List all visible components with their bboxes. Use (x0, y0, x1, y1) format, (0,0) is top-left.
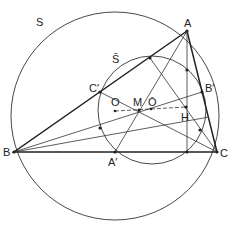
altitude-B (14, 117, 209, 152)
label-B: B (3, 146, 10, 158)
label-O-bar: Ō (148, 96, 157, 108)
label-O: O (111, 96, 120, 108)
label-A-prime: A′ (108, 156, 117, 168)
label-S: S (36, 16, 43, 28)
points (12, 29, 218, 153)
median-B (14, 92, 202, 152)
label-M: M (133, 96, 142, 108)
label-C-prime: C′ (89, 82, 99, 94)
label-H: H (181, 111, 189, 123)
label-B-prime: B′ (205, 82, 214, 94)
label-C: C (220, 147, 228, 159)
geometry-diagram: S S̄ A B C A′ B′ C′ O M Ō H (0, 0, 230, 230)
label-A: A (184, 17, 192, 29)
median-A (115, 31, 187, 152)
label-S-bar: S̄ (112, 53, 119, 65)
